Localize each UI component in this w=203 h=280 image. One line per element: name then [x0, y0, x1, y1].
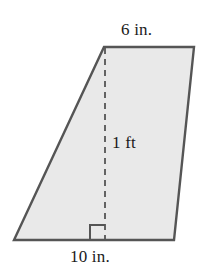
- top-side-length-label: 6 in.: [121, 21, 152, 38]
- height-length-label: 1 ft: [112, 134, 136, 151]
- bottom-side-length-label: 10 in.: [70, 248, 110, 265]
- trapezoid-diagram: [0, 0, 203, 280]
- figure-canvas: 6 in. 1 ft 10 in.: [0, 0, 203, 280]
- trapezoid-shape: [14, 47, 194, 240]
